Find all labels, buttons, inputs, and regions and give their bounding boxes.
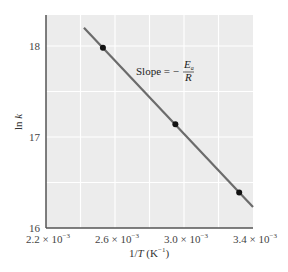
data-point xyxy=(236,190,242,196)
x-tick-label: 2.6 × 10−3 xyxy=(95,232,139,245)
arrhenius-chart: 161718 2.2 × 10−32.6 × 10−33.0 × 10−33.4… xyxy=(0,0,288,272)
data-point xyxy=(100,45,106,51)
x-tick-label: 2.2 × 10−3 xyxy=(26,232,70,245)
x-tick-label: 3.4 × 10−3 xyxy=(233,232,277,245)
y-tick-labels: 161718 xyxy=(29,40,41,234)
y-tick-label: 17 xyxy=(29,131,41,143)
x-tick-labels: 2.2 × 10−32.6 × 10−33.0 × 10−33.4 × 10−3 xyxy=(26,232,277,245)
y-axis-title: ln k xyxy=(12,113,24,130)
y-tick-label: 18 xyxy=(29,40,41,52)
x-axis-title: 1/T (K−1) xyxy=(129,246,170,260)
slope-text: Slope = − xyxy=(136,65,179,77)
x-tick-label: 3.0 × 10−3 xyxy=(164,232,208,245)
slope-denominator: R xyxy=(184,71,192,83)
data-point xyxy=(172,121,178,127)
